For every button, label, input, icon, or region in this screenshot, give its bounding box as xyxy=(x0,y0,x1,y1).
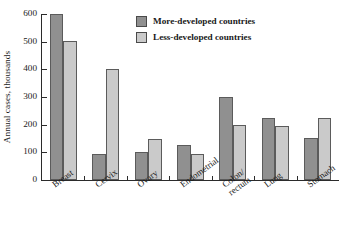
y-tick-label: 500 xyxy=(23,37,37,46)
y-tick-mark xyxy=(42,14,47,15)
bar xyxy=(219,97,233,180)
y-tick-mark xyxy=(42,69,47,70)
y-tick-label: 600 xyxy=(23,9,37,18)
x-tick-mark xyxy=(254,176,255,181)
y-tick-label: 200 xyxy=(23,120,37,129)
y-tick-mark xyxy=(42,97,47,98)
legend-label-less-developed: Less-developed countries xyxy=(153,32,251,42)
y-tick-label: 300 xyxy=(23,92,37,101)
x-tick-mark xyxy=(127,176,128,181)
x-tick-mark xyxy=(169,176,170,181)
bar xyxy=(50,14,64,180)
x-axis-tick-labels: BreastCervixOvaryEndometrialColon/rectum… xyxy=(41,182,343,235)
y-axis-tick-labels: 0100200300400500600 xyxy=(14,0,40,235)
y-tick-mark xyxy=(42,152,47,153)
x-tick-mark xyxy=(212,176,213,181)
bar xyxy=(106,69,120,180)
bar xyxy=(262,118,276,180)
y-tick-mark xyxy=(42,42,47,43)
legend-label-more-developed: More-developed countries xyxy=(153,16,255,26)
legend-swatch-more-developed xyxy=(136,16,147,27)
y-tick-label: 400 xyxy=(23,64,37,73)
y-tick-mark xyxy=(42,125,47,126)
y-axis-title: Annual cases, thousands xyxy=(0,14,14,180)
legend-swatch-less-developed xyxy=(136,32,147,43)
y-tick-label: 0 xyxy=(32,175,37,184)
x-tick-mark xyxy=(297,176,298,181)
y-tick-label: 100 xyxy=(23,147,37,156)
legend-item-less-developed: Less-developed countries xyxy=(136,30,326,44)
bar xyxy=(63,41,77,180)
chart-legend: More-developed countries Less-developed … xyxy=(136,14,326,46)
x-tick-mark xyxy=(84,176,85,181)
legend-item-more-developed: More-developed countries xyxy=(136,14,326,28)
y-axis-title-text: Annual cases, thousands xyxy=(2,51,12,143)
bar-chart-figure: Annual cases, thousands 0100200300400500… xyxy=(0,0,343,235)
